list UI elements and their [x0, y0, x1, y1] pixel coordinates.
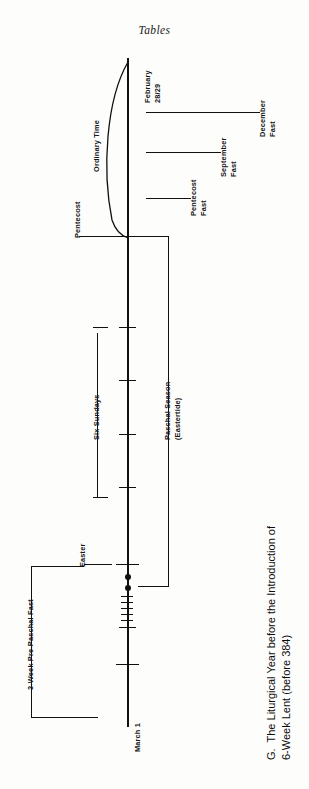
label-march-one: March 1: [133, 723, 142, 752]
axis-cap-top: [115, 57, 140, 59]
label-pentecost-fast-line2: Fast: [199, 200, 208, 216]
paschal-bracket-arm-bottom: [138, 586, 169, 587]
axis-tick: [119, 627, 136, 628]
label-september-fast-line2: Fast: [229, 161, 238, 177]
axis-tick: [121, 620, 133, 621]
axis-tick-easter: [116, 564, 139, 565]
six-sundays-arm-bottom: [93, 497, 108, 498]
label-february: February: [144, 70, 153, 103]
page-header-tables: Tables: [0, 24, 309, 36]
pre-paschal-arm-bottom: [31, 717, 98, 718]
december-fast-line: [146, 112, 260, 113]
label-december-fast-line1: December: [258, 100, 267, 137]
axis-tick: [116, 664, 139, 665]
axis-tick: [121, 602, 133, 603]
label-paschal-season-line2: (Eastertide): [174, 398, 183, 440]
pre-paschal-arm-top: [31, 566, 84, 567]
pentecost-fast-line: [146, 198, 191, 199]
axis-tick: [121, 608, 133, 609]
label-ordinary-time: Ordinary Time: [92, 120, 101, 172]
label-paschal-season-line1: Paschal Season: [164, 382, 173, 440]
label-december-fast-line2: Fast: [268, 121, 277, 137]
ordinary-time-brace: [96, 60, 132, 240]
axis-tick: [119, 327, 136, 328]
september-fast-line: [146, 152, 221, 153]
label-easter: Easter: [78, 544, 87, 568]
label-february-days: 28/29: [154, 84, 163, 103]
pentecost-leader-line: [79, 236, 117, 237]
easter-dot-upper: [125, 574, 131, 580]
label-pentecost: Pentecost: [73, 201, 82, 238]
figure-caption: G. The Liturgical Year before the Introd…: [264, 526, 294, 760]
axis-tick: [121, 596, 133, 597]
easter-dot-lower: [125, 585, 131, 591]
axis-tick: [119, 434, 136, 435]
six-sundays-arm-top: [93, 327, 108, 328]
easter-leader-line: [84, 564, 112, 565]
axis-tick: [121, 614, 133, 615]
diagram-page: Tables February 28/29 March 1 Ordinary T…: [0, 0, 309, 789]
label-september-fast-line1: September: [219, 137, 228, 177]
label-pre-paschal-fast: 3-Week Pre-Paschal Fast: [26, 599, 35, 690]
axis-tick: [119, 487, 136, 488]
paschal-bracket-arm-top: [138, 236, 169, 237]
axis-tick: [119, 380, 136, 381]
label-six-sundays: Six Sundays: [92, 394, 101, 440]
label-pentecost-fast-line1: Pentecost: [189, 179, 198, 216]
